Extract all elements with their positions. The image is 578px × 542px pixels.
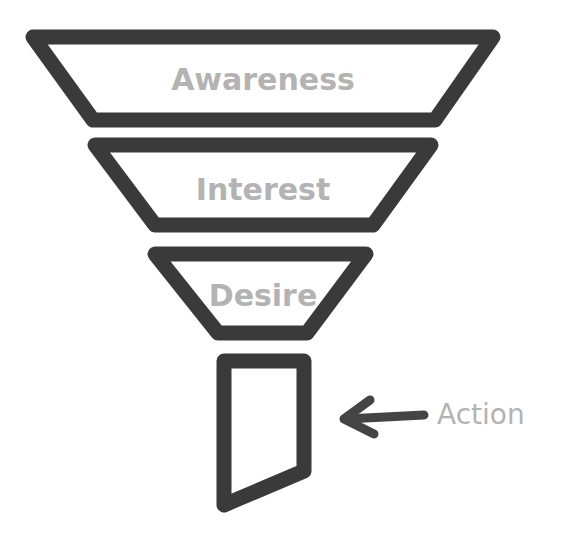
action-spout <box>224 361 304 505</box>
funnel-stage-action <box>224 361 304 505</box>
funnel-stage-awareness: Awareness <box>33 37 493 120</box>
desire-label: Desire <box>209 278 318 313</box>
interest-label: Interest <box>196 172 331 207</box>
arrow-left-icon <box>344 400 424 434</box>
funnel-diagram: Awareness Interest Desire Action <box>0 0 578 542</box>
funnel-stage-interest: Interest <box>95 145 431 225</box>
funnel-stage-desire: Desire <box>155 254 366 333</box>
action-label: Action <box>437 398 525 431</box>
awareness-label: Awareness <box>171 62 355 97</box>
